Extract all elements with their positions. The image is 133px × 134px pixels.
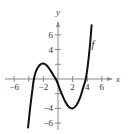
function-graph: −6−224664−4−6 x y f bbox=[0, 0, 133, 134]
x-axis-arrow-icon bbox=[107, 77, 113, 81]
x-axis-label: x bbox=[115, 74, 120, 84]
curve-f bbox=[28, 25, 92, 127]
y-tick-label: 4 bbox=[49, 45, 54, 55]
x-tick-label: −6 bbox=[9, 82, 19, 92]
y-axis-arrow-icon bbox=[56, 21, 60, 27]
y-tick-label: −6 bbox=[43, 118, 53, 128]
x-tick-label: 6 bbox=[100, 82, 105, 92]
y-tick-label: −4 bbox=[43, 103, 53, 113]
x-tick-label: 4 bbox=[85, 82, 90, 92]
axes bbox=[5, 21, 113, 130]
y-axis-label: y bbox=[55, 7, 60, 17]
x-tick-label: 2 bbox=[70, 82, 75, 92]
curve-label-f: f bbox=[92, 39, 96, 50]
y-tick-label: 6 bbox=[49, 30, 54, 40]
x-tick-label: −2 bbox=[39, 82, 49, 92]
